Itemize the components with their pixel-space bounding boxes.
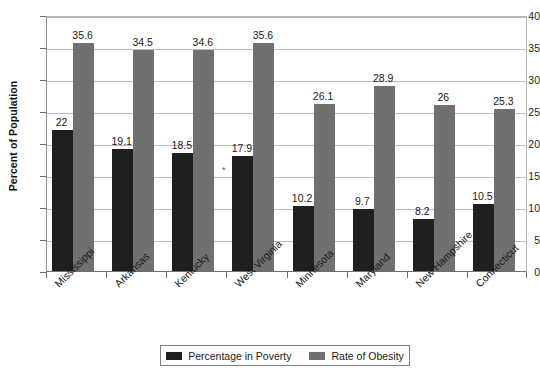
bar-value-label: 10.5 xyxy=(472,190,492,202)
bar-value-label: 10.2 xyxy=(292,192,312,204)
bar-obesity xyxy=(374,86,395,271)
legend-swatch-obesity xyxy=(309,352,325,360)
bar-poverty xyxy=(232,156,253,271)
bar-value-label: 25.3 xyxy=(493,95,513,107)
bar-obesity xyxy=(133,50,154,271)
bar-chart: Percent of Population 0510152025303540 2… xyxy=(0,0,540,379)
gridline xyxy=(47,81,526,82)
bar-value-label: 26.1 xyxy=(313,90,333,102)
bar-obesity xyxy=(193,50,214,271)
bar-obesity xyxy=(73,43,94,271)
x-axis-tick xyxy=(46,272,47,278)
x-axis-tick xyxy=(407,272,408,278)
bar-value-label: 19.1 xyxy=(111,135,131,147)
chart-legend: Percentage in Poverty Rate of Obesity xyxy=(160,345,410,366)
legend-swatch-poverty xyxy=(166,352,182,360)
x-axis-tick xyxy=(106,272,107,278)
bar-obesity xyxy=(314,104,335,271)
bar-poverty xyxy=(473,204,494,271)
legend-item-poverty: Percentage in Poverty xyxy=(166,350,291,362)
bar-value-label: 8.2 xyxy=(415,205,430,217)
x-axis-tick xyxy=(347,272,348,278)
gridline xyxy=(47,49,526,50)
bar-poverty xyxy=(172,153,193,271)
bar-value-label: 17.9 xyxy=(232,142,252,154)
gridline xyxy=(47,17,526,18)
bar-value-label: 26 xyxy=(437,91,449,103)
bar-poverty xyxy=(112,149,133,271)
footnote-asterisk: * xyxy=(222,166,226,175)
bar-value-label: 28.9 xyxy=(373,72,393,84)
bar-value-label: 9.7 xyxy=(355,195,370,207)
x-axis-tick xyxy=(467,272,468,278)
bar-poverty xyxy=(52,130,73,271)
x-axis-tick xyxy=(526,272,527,278)
legend-item-obesity: Rate of Obesity xyxy=(309,350,403,362)
y-axis-title-text: Percent of Population xyxy=(7,81,19,192)
bar-value-label: 34.6 xyxy=(193,36,213,48)
x-axis-tick xyxy=(166,272,167,278)
y-axis-title: Percent of Population xyxy=(2,0,24,272)
bar-obesity xyxy=(253,43,274,271)
bar-value-label: 22 xyxy=(56,116,68,128)
bar-value-label: 35.6 xyxy=(253,29,273,41)
x-axis-tick xyxy=(287,272,288,278)
bar-value-label: 18.5 xyxy=(172,139,192,151)
x-axis-tick xyxy=(226,272,227,278)
bar-value-label: 35.6 xyxy=(72,29,92,41)
legend-label-obesity: Rate of Obesity xyxy=(331,350,403,362)
legend-label-poverty: Percentage in Poverty xyxy=(188,350,291,362)
bar-poverty xyxy=(293,206,314,271)
bar-value-label: 34.5 xyxy=(132,36,152,48)
